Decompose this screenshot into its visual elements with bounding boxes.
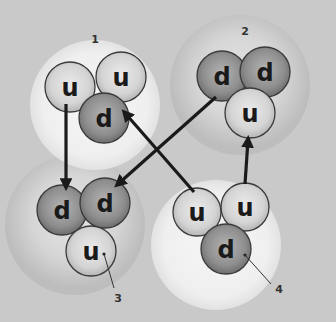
quark-diagram: uudddudduuud 1234 [0,0,336,322]
quark-label: d [95,105,112,133]
quark-label: u [82,238,99,266]
group-number-label: 3 [114,292,122,305]
quark-label: d [256,59,273,87]
quark-label: d [53,197,70,225]
group-number-label: 2 [241,25,249,38]
quark-label: u [241,100,258,128]
quark-label: u [112,64,129,92]
quark-d: d [79,93,129,143]
quark-label: u [188,199,205,227]
quark-label: d [213,63,230,91]
quark-label: u [61,74,78,102]
group-number-label: 4 [275,283,283,296]
quark-d: d [201,224,251,274]
quark-label: u [236,194,253,222]
quark-label: d [96,190,113,218]
quark-d: d [80,178,130,228]
group-number-label: 1 [91,33,99,46]
quark-label: d [217,236,234,264]
quark-u: u [225,88,275,138]
quark-d: d [37,185,87,235]
